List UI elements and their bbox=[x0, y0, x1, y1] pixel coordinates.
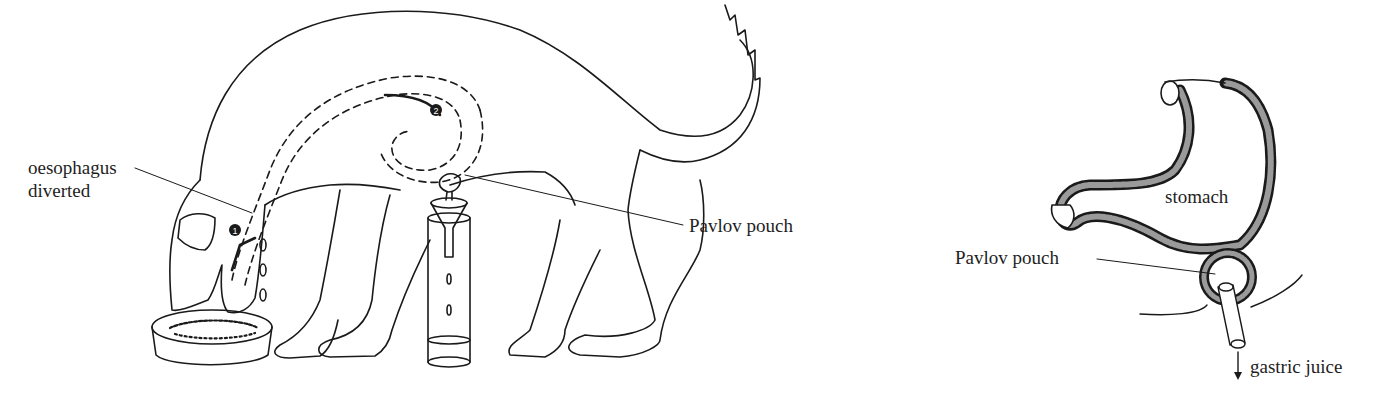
pavlov-pouch-label-right: Pavlov pouch bbox=[955, 247, 1059, 269]
gastric-juice-label: gastric juice bbox=[1250, 356, 1342, 378]
pavlov-pouch-leader-line-right bbox=[1097, 259, 1215, 274]
pavlov-figure: 1 2 oesophagus diverted Pavlov pouch bbox=[0, 0, 1388, 402]
stomach-wall bbox=[1060, 83, 1271, 249]
stomach-label: stomach bbox=[1165, 186, 1228, 208]
